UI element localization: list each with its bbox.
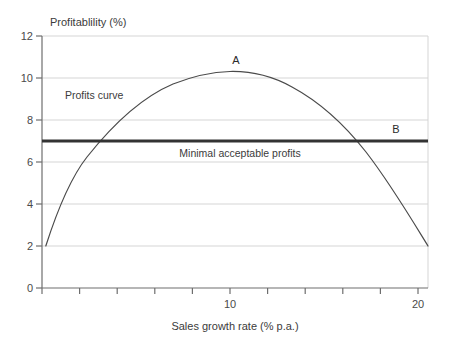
y-axis-title: Profitablility (%) <box>50 16 126 28</box>
point-b-label: B <box>392 123 399 135</box>
chart-canvas: 12 10 8 6 4 2 0 10 20 Profitablility (%)… <box>0 0 451 348</box>
point-a-label: A <box>232 54 240 66</box>
x-tick-label-20: 20 <box>412 298 424 310</box>
profitability-chart: 12 10 8 6 4 2 0 10 20 Profitablility (%)… <box>0 0 451 348</box>
y-tick-label-8: 8 <box>27 114 33 126</box>
x-tick-label-10: 10 <box>224 298 236 310</box>
x-axis-title: Sales growth rate (% p.a.) <box>171 320 298 332</box>
y-tick-label-4: 4 <box>27 198 33 210</box>
minimal-acceptable-profits-label: Minimal acceptable profits <box>179 147 300 159</box>
x-axis-ticks <box>42 288 418 294</box>
y-tick-label-10: 10 <box>21 72 33 84</box>
y-tick-label-0: 0 <box>27 282 33 294</box>
y-tick-label-12: 12 <box>21 30 33 42</box>
y-tick-label-2: 2 <box>27 240 33 252</box>
profits-curve-label: Profits curve <box>65 89 124 101</box>
y-axis-ticks <box>36 36 42 288</box>
y-tick-label-6: 6 <box>27 156 33 168</box>
